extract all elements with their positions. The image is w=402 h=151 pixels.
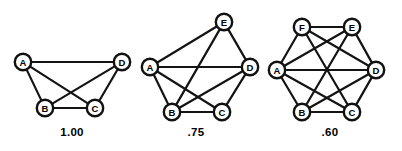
node-label-E: E bbox=[349, 22, 355, 33]
graph-node-A: A bbox=[269, 62, 285, 78]
graph-node-D: D bbox=[114, 54, 130, 70]
density-label-graph-2: .75 bbox=[188, 126, 205, 138]
node-label-B: B bbox=[42, 103, 49, 114]
graph-edge-A-B bbox=[153, 74, 168, 105]
graph-node-C: C bbox=[214, 104, 230, 120]
node-label-A: A bbox=[20, 57, 27, 68]
density-label-graph-1: 1.00 bbox=[60, 126, 84, 138]
graph-node-B: B bbox=[294, 104, 310, 120]
node-label-D: D bbox=[119, 57, 126, 68]
graph-node-A: A bbox=[15, 54, 31, 70]
graph-node-E: E bbox=[216, 14, 232, 30]
node-label-D: D bbox=[373, 65, 380, 76]
node-label-E: E bbox=[221, 17, 227, 28]
node-label-C: C bbox=[92, 103, 99, 114]
graph-node-C: C bbox=[344, 104, 360, 120]
edges-layer bbox=[26, 26, 372, 112]
node-label-A: A bbox=[274, 65, 281, 76]
node-label-F: F bbox=[299, 22, 305, 33]
graph-node-E: E bbox=[344, 19, 360, 35]
graph-density-figure: ABCDABCDEABCDEF 1.00.75.60 bbox=[0, 0, 402, 151]
graph-edge-A-E bbox=[156, 26, 217, 63]
node-label-B: B bbox=[169, 107, 176, 118]
density-labels-layer: 1.00.75.60 bbox=[60, 126, 338, 138]
density-label-graph-3: .60 bbox=[322, 126, 339, 138]
graph-node-D: D bbox=[242, 59, 258, 75]
node-label-D: D bbox=[247, 62, 254, 73]
graph-edge-D-E bbox=[228, 29, 246, 61]
graph-edge-B-D bbox=[52, 66, 116, 104]
graph-node-B: B bbox=[164, 104, 180, 120]
node-label-C: C bbox=[219, 107, 226, 118]
graph-diagram-canvas: ABCDABCDEABCDEF 1.00.75.60 bbox=[0, 0, 402, 151]
graph-edge-D-F bbox=[309, 31, 370, 66]
graph-edge-B-D bbox=[179, 71, 244, 108]
node-label-C: C bbox=[349, 107, 356, 118]
graph-node-B: B bbox=[37, 100, 53, 116]
graph-edge-A-C bbox=[29, 66, 88, 104]
graph-node-A: A bbox=[142, 59, 158, 75]
node-label-B: B bbox=[299, 107, 306, 118]
graph-node-D: D bbox=[368, 62, 384, 78]
graph-node-C: C bbox=[87, 100, 103, 116]
graph-node-F: F bbox=[294, 19, 310, 35]
node-label-A: A bbox=[147, 62, 154, 73]
